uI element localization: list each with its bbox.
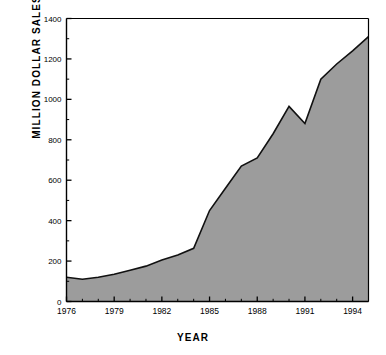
x-tick-label: 1979 — [105, 306, 124, 316]
x-tick-label: 1976 — [57, 306, 76, 316]
y-tick-label: 200 — [48, 257, 62, 266]
y-tick-label: 1200 — [44, 55, 62, 64]
y-axis-ticks: 0200400600800100012001400 — [44, 15, 72, 307]
y-tick-label: 600 — [48, 176, 62, 185]
x-tick-label: 1988 — [248, 306, 267, 316]
y-tick-label: 1400 — [44, 15, 62, 24]
chart-figure: MILLION DOLLAR SALES YEAR 02004006008001… — [0, 0, 386, 355]
y-tick-label: 800 — [48, 136, 62, 145]
y-tick-label: 400 — [48, 217, 62, 226]
chart-svg: 0200400600800100012001400 19761979198219… — [0, 0, 386, 355]
x-tick-label: 1985 — [200, 306, 219, 316]
y-tick-label: 1000 — [44, 95, 62, 104]
x-tick-label: 1991 — [295, 306, 314, 316]
x-tick-label: 1994 — [343, 306, 362, 316]
x-tick-label: 1982 — [152, 306, 171, 316]
